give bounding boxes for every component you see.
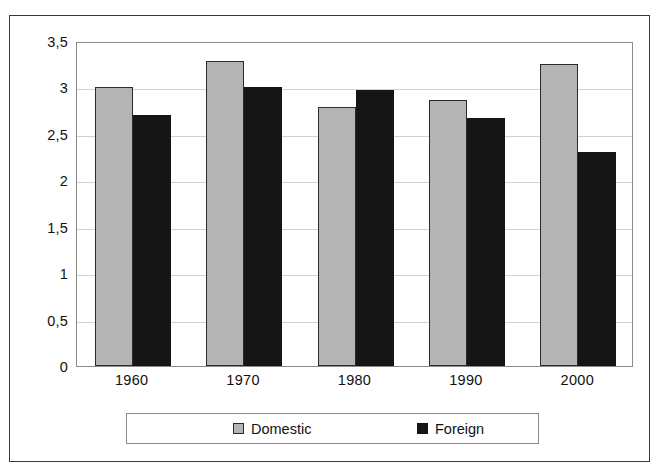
bar-domestic-1980[interactable] (318, 107, 356, 366)
bar-foreign-1990[interactable] (467, 118, 505, 366)
bar-domestic-1960[interactable] (95, 87, 133, 366)
bar-domestic-1970[interactable] (206, 61, 244, 366)
bar-domestic-1990[interactable] (429, 100, 467, 367)
y-tick-label: 2 (16, 173, 68, 189)
bar-foreign-1980[interactable] (356, 90, 394, 366)
legend-item-foreign[interactable]: Foreign (417, 421, 484, 437)
y-axis: 00,511,522,533,5 (10, 42, 68, 367)
chart-figure: 00,511,522,533,5 19601970198019902000 Do… (9, 15, 650, 462)
legend-label-domestic: Domestic (251, 421, 311, 437)
bar-group (95, 43, 171, 366)
plot-area (76, 42, 633, 367)
bar-foreign-2000[interactable] (578, 152, 616, 366)
bar-foreign-1970[interactable] (244, 87, 282, 366)
x-axis: 19601970198019902000 (76, 372, 633, 398)
legend-item-domestic[interactable]: Domestic (233, 421, 311, 437)
chart-legend: Domestic Foreign (126, 413, 539, 444)
legend-label-foreign: Foreign (435, 421, 484, 437)
bar-group (318, 43, 394, 366)
x-tick-label-2000: 2000 (561, 372, 594, 388)
y-tick-label: 1 (16, 266, 68, 282)
x-tick-label-1970: 1970 (226, 372, 259, 388)
gray-square-icon (233, 423, 244, 434)
black-square-icon (417, 423, 428, 434)
y-tick-label: 3 (16, 80, 68, 96)
y-tick-label: 3,5 (16, 34, 68, 50)
x-tick-label-1990: 1990 (449, 372, 482, 388)
bar-domestic-2000[interactable] (540, 64, 578, 366)
bars-layer (77, 43, 632, 366)
y-tick-label: 0,5 (16, 313, 68, 329)
bar-group (540, 43, 616, 366)
x-tick-label-1980: 1980 (338, 372, 371, 388)
y-tick-label: 1,5 (16, 220, 68, 236)
x-tick-label-1960: 1960 (115, 372, 148, 388)
y-tick-label: 0 (16, 359, 68, 375)
bar-foreign-1960[interactable] (133, 115, 171, 366)
bar-group (429, 43, 505, 366)
y-tick-label: 2,5 (16, 127, 68, 143)
bar-group (206, 43, 282, 366)
